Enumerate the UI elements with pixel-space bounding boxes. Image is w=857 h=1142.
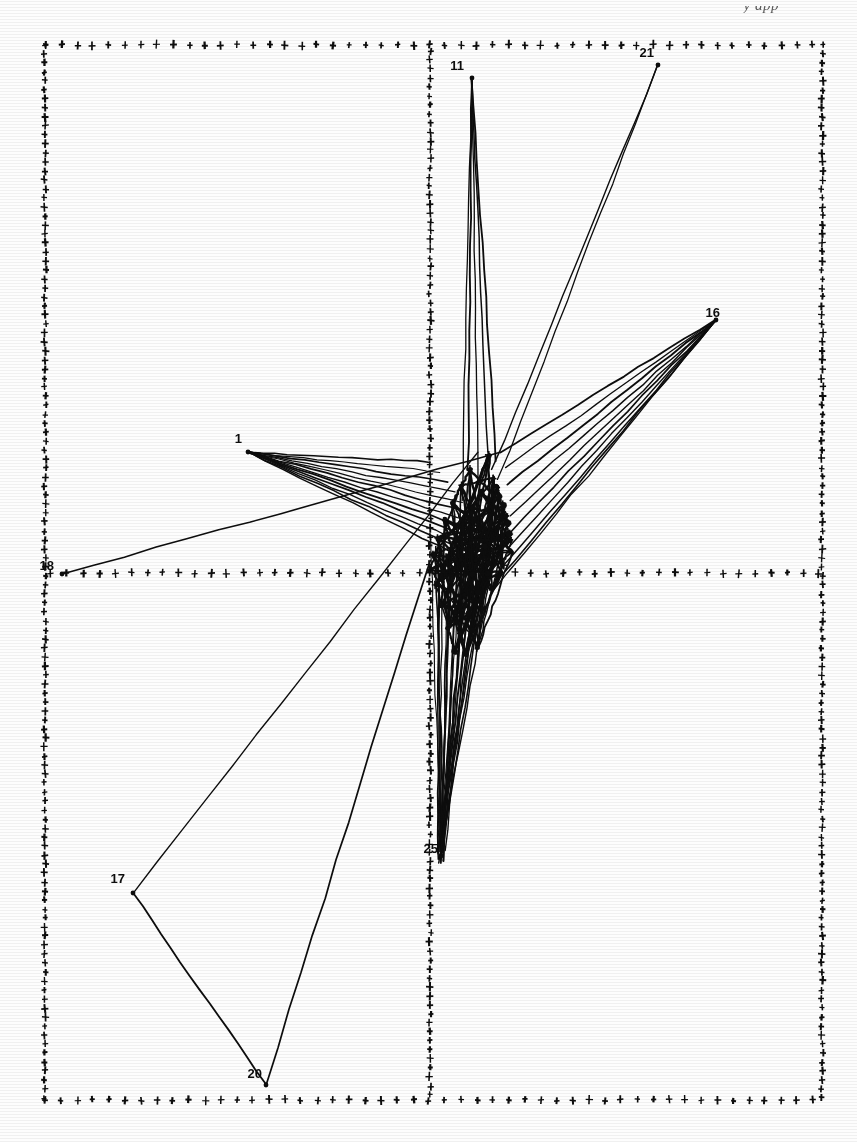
graph-node[interactable]: 11 — [450, 58, 474, 80]
node-label: 11 — [450, 58, 464, 73]
node-label: 17 — [111, 871, 125, 886]
node-marker — [439, 854, 444, 859]
node-label: 25 — [424, 841, 438, 856]
node-marker — [60, 572, 65, 577]
node-label: 16 — [706, 305, 720, 320]
node-marker — [246, 450, 251, 455]
graph-node[interactable]: 16 — [706, 305, 720, 322]
figure-page: y app 112116118172025 — [0, 0, 857, 1142]
edge-layer — [62, 65, 716, 1086]
node-label: 1 — [235, 431, 242, 446]
node-label: 20 — [248, 1066, 262, 1081]
node-marker — [656, 63, 661, 68]
node-marker — [264, 1083, 269, 1088]
graph-layout-figure: 112116118172025 — [0, 0, 857, 1142]
graph-node[interactable]: 21 — [640, 45, 661, 67]
plot-canvas: 112116118172025 — [0, 0, 857, 1142]
node-marker — [131, 891, 136, 896]
axis-markers — [47, 48, 822, 1098]
node-marker — [470, 76, 475, 81]
node-label: 21 — [640, 45, 654, 60]
labeled-node-layer: 112116118172025 — [40, 45, 720, 1087]
graph-node[interactable]: 17 — [111, 871, 136, 895]
graph-node[interactable]: 20 — [248, 1066, 269, 1087]
graph-node[interactable]: 1 — [235, 431, 251, 454]
node-label: 18 — [40, 558, 54, 573]
